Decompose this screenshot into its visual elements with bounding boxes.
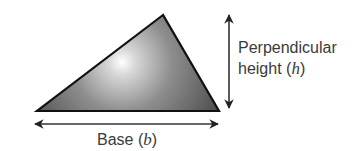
triangle-shape <box>37 15 219 111</box>
base-variable: b <box>143 130 152 149</box>
base-label: Base (b) <box>97 129 157 150</box>
base-label-suffix: ) <box>152 131 157 148</box>
height-label-line1: Perpendicular <box>238 37 337 58</box>
height-label-prefix: height ( <box>238 60 291 77</box>
height-label-suffix: ) <box>300 60 305 77</box>
base-label-prefix: Base ( <box>97 131 143 148</box>
height-label-line2: height (h) <box>238 58 337 79</box>
height-variable: h <box>291 59 300 78</box>
perpendicular-height-label: Perpendicular height (h) <box>238 37 337 79</box>
